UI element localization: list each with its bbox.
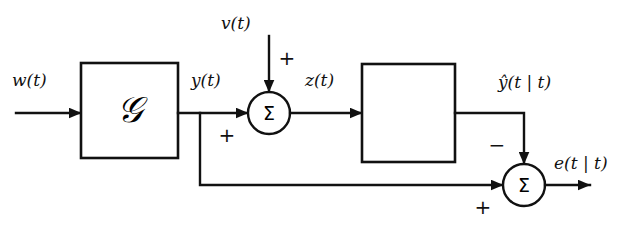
wire-feedback-branch — [200, 113, 503, 185]
block-h-rect — [362, 64, 455, 162]
block-diagram-canvas: 𝒢 Σ 𝒧 Σ w(t) y(t) v(t) z(t) ŷ(t | t) e(t… — [0, 0, 626, 225]
sign-sum1-left: + — [219, 123, 236, 147]
sum-junction-1-sigma: Σ — [263, 102, 275, 124]
sum-junction-2-sigma: Σ — [518, 174, 530, 196]
block-diagram-svg: 𝒢 Σ 𝒧 Σ w(t) y(t) v(t) z(t) ŷ(t | t) e(t… — [0, 0, 626, 225]
label-v: v(t) — [221, 13, 251, 33]
label-y: y(t) — [190, 70, 221, 90]
label-z: z(t) — [304, 70, 334, 90]
label-yhat: ŷ(t | t) — [497, 72, 551, 92]
label-e: e(t | t) — [554, 153, 608, 173]
label-w: w(t) — [12, 70, 47, 90]
sign-sum2-left: + — [475, 195, 492, 219]
sign-sum1-top: + — [279, 46, 296, 70]
sign-sum2-top: − — [489, 133, 506, 157]
